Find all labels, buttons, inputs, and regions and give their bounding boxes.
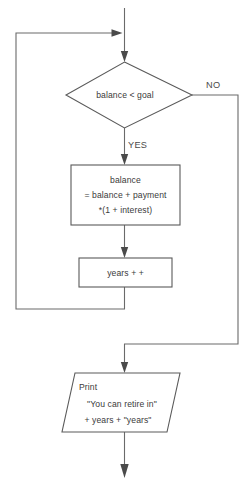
connector-print-exit: [120, 432, 128, 478]
yes-branch-label: YES: [128, 140, 147, 150]
flowchart-svg: balance < goal YES NO balance = balance …: [0, 0, 250, 483]
process-years-node[interactable]: years + +: [79, 258, 172, 287]
process-balance-node[interactable]: balance = balance + payment *(1 + intere…: [71, 165, 180, 225]
connector-no-branch: [121, 95, 238, 373]
decision-label: balance < goal: [96, 90, 154, 100]
output-print-line2: "You can retire in": [87, 399, 157, 409]
process-balance-line3: *(1 + interest): [99, 205, 152, 215]
process-balance-line2: = balance + payment: [84, 190, 167, 200]
output-print-line3: + years + "years": [84, 415, 151, 425]
no-branch-label: NO: [206, 80, 220, 90]
flowchart-canvas: balance < goal YES NO balance = balance …: [0, 0, 250, 483]
output-print-line1: Print: [79, 382, 98, 392]
output-print-node[interactable]: Print "You can retire in" + years + "yea…: [62, 373, 180, 432]
process-balance-line1: balance: [110, 175, 141, 185]
process-years-label: years + +: [107, 268, 144, 278]
connector-balance-to-years: [121, 225, 128, 258]
decision-node[interactable]: balance < goal: [66, 62, 192, 128]
connector-entry: [121, 8, 128, 62]
